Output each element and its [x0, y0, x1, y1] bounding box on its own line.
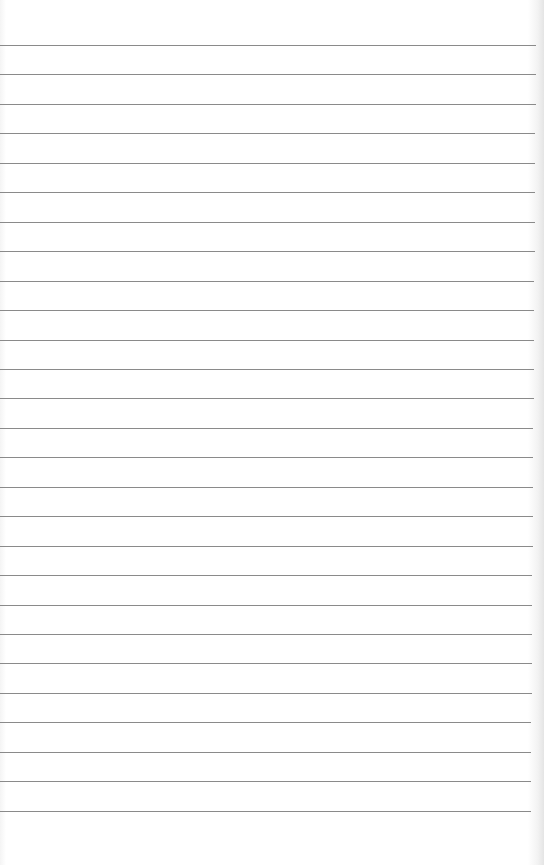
- ruled-line: [0, 752, 531, 753]
- ruled-line: [0, 575, 532, 576]
- ruled-line: [0, 251, 535, 252]
- ruled-line: [0, 605, 532, 606]
- ruled-line: [0, 487, 533, 488]
- ruled-line: [0, 369, 534, 370]
- ruled-line: [0, 45, 536, 46]
- ruled-paper: [0, 0, 544, 865]
- ruled-line: [0, 457, 533, 458]
- ruled-line: [0, 722, 531, 723]
- ruled-line: [0, 133, 535, 134]
- ruled-line: [0, 428, 533, 429]
- ruled-line: [0, 74, 536, 75]
- ruled-line: [0, 222, 535, 223]
- ruled-line: [0, 340, 534, 341]
- ruled-line: [0, 546, 533, 547]
- ruled-line: [0, 516, 533, 517]
- ruled-line: [0, 192, 535, 193]
- ruled-line: [0, 163, 535, 164]
- ruled-line: [0, 693, 532, 694]
- ruled-line: [0, 811, 531, 812]
- ruled-line: [0, 634, 532, 635]
- ruled-line: [0, 281, 534, 282]
- ruled-line: [0, 663, 532, 664]
- ruled-line: [0, 104, 536, 105]
- ruled-line: [0, 781, 531, 782]
- ruled-line: [0, 398, 534, 399]
- ruled-line: [0, 310, 534, 311]
